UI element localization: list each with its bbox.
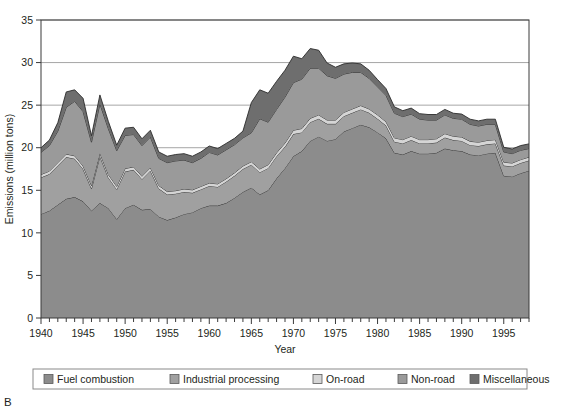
x-tick-label: 1985 [408,327,432,339]
y-tick-label: 10 [21,227,33,239]
legend-label-non-road: Non-road [411,373,455,385]
x-tick-label: 1995 [492,327,516,339]
y-axis-title: Emissions (million tons) [3,114,15,224]
y-tick-label: 20 [21,141,33,153]
legend-swatch-non-road[interactable] [398,375,407,384]
x-tick-label: 1975 [324,327,348,339]
y-tick-label: 15 [21,184,33,196]
x-tick-label: 1955 [156,327,180,339]
x-axis-title: Year [274,343,296,355]
legend-swatch-miscellaneous[interactable] [470,375,479,384]
y-tick-label: 25 [21,99,33,111]
x-tick-label: 1960 [198,327,222,339]
x-tick-label: 1970 [282,327,306,339]
x-tick-label: 1965 [240,327,264,339]
y-tick-label: 0 [27,312,33,324]
y-tick-label: 5 [27,269,33,281]
legend-label-fuel-combustion: Fuel combustion [57,373,134,385]
legend-swatch-fuel-combustion[interactable] [44,375,53,384]
y-tick-label: 30 [21,56,33,68]
x-axis: 1940194519501955196019651970197519801985… [29,318,529,339]
x-tick-label: 1980 [366,327,390,339]
legend-label-on-road: On-road [326,373,365,385]
legend-swatch-on-road[interactable] [313,375,322,384]
figure-panel-b: 05101520253035Emissions (million tons)19… [0,0,561,412]
y-axis: 05101520253035 [21,14,41,324]
x-tick-label: 1990 [450,327,474,339]
emissions-stacked-area-chart: 05101520253035Emissions (million tons)19… [0,0,561,412]
x-tick-label: 1945 [71,327,95,339]
legend-swatch-industrial-processing[interactable] [170,375,179,384]
x-tick-label: 1950 [113,327,137,339]
y-tick-label: 35 [21,14,33,26]
legend: Fuel combustionIndustrial processingOn-r… [33,369,550,389]
legend-label-miscellaneous: Miscellaneous [483,373,550,385]
legend-label-industrial-processing: Industrial processing [183,373,279,385]
x-tick-label: 1940 [29,327,53,339]
panel-label: B [4,396,12,408]
